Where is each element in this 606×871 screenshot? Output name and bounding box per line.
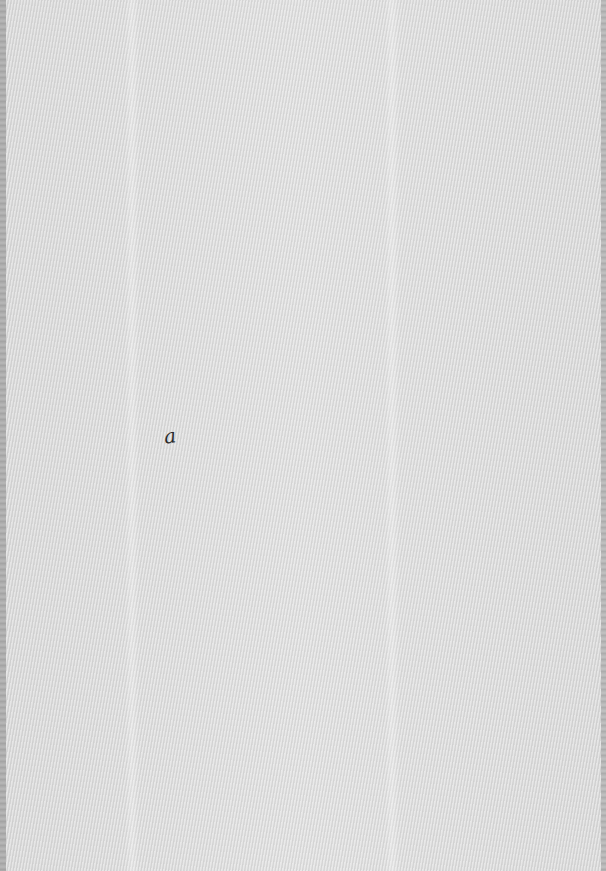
paper-texture-band (385, 0, 399, 871)
left-scan-edge (0, 0, 6, 871)
right-scan-edge (601, 0, 606, 871)
paper-texture-band (125, 0, 139, 871)
handwritten-mark: a (163, 425, 178, 446)
scanned-page: a (0, 0, 606, 871)
